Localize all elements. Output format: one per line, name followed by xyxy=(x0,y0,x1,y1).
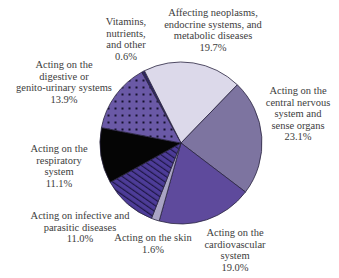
label-pct: 23.1% xyxy=(259,131,337,143)
label-line: central nervous xyxy=(259,97,337,109)
label-pct: 11.0% xyxy=(28,233,132,245)
label-line: Vitamins, xyxy=(100,16,152,28)
label-line: metabolic diseases xyxy=(158,30,268,42)
label-neoplasms: Affecting neoplasms, endocrine systems, … xyxy=(158,7,268,53)
label-line: genito-urinary systems xyxy=(14,82,114,94)
label-vitamins: Vitamins, nutrients, and other 0.6% xyxy=(100,16,152,62)
label-line: digestive or xyxy=(14,71,114,83)
label-line: Acting on the xyxy=(259,85,337,97)
label-line: endocrine systems, and xyxy=(158,19,268,31)
label-pct: 13.9% xyxy=(14,94,114,106)
label-infective: Acting on infective and parasitic diseas… xyxy=(28,210,132,245)
label-line: Affecting neoplasms, xyxy=(158,7,268,19)
label-pct: 11.1% xyxy=(28,178,90,190)
label-cardio: Acting on the cardiovascular system 19.0… xyxy=(200,227,270,273)
label-line: Acting on the xyxy=(28,143,90,155)
label-pct: 19.0% xyxy=(200,262,270,274)
label-pct: 1.6% xyxy=(108,244,198,256)
label-line: Acting on the xyxy=(14,59,114,71)
label-line: system xyxy=(200,250,270,262)
label-line: and other xyxy=(100,39,152,51)
pie-slices xyxy=(100,62,262,224)
label-line: parasitic diseases xyxy=(28,222,132,234)
label-line: Acting on the xyxy=(200,227,270,239)
label-cns: Acting on the central nervous system and… xyxy=(259,85,337,143)
label-respiratory: Acting on the respiratory system 11.1% xyxy=(28,143,90,189)
label-line: respiratory xyxy=(28,155,90,167)
label-digestive: Acting on the digestive or genito-urinar… xyxy=(14,59,114,105)
label-line: nutrients, xyxy=(100,28,152,40)
label-line: system xyxy=(28,166,90,178)
label-line: sense organs xyxy=(259,120,337,132)
label-line: Acting on infective and xyxy=(28,210,132,222)
label-line: cardiovascular xyxy=(200,239,270,251)
label-pct: 19.7% xyxy=(158,42,268,54)
label-line: system and xyxy=(259,108,337,120)
